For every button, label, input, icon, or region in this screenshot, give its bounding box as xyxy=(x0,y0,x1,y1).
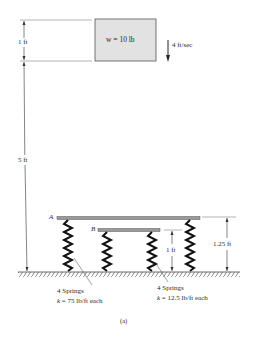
block-weight-label: w = 10 lb xyxy=(106,36,135,44)
inner-springs-stiffness: k = 12.5 lb/ft each xyxy=(157,295,208,302)
spring-b-right xyxy=(148,232,156,271)
spring-impact-diagram xyxy=(0,0,256,340)
figure-caption: (a) xyxy=(120,318,127,325)
spring-a-right xyxy=(186,220,194,271)
velocity-label: 4 ft/sec xyxy=(172,42,192,49)
platform-a-height-label: 1.25 ft xyxy=(213,241,231,248)
velocity-arrow-icon xyxy=(166,40,170,62)
drop-height-dimension xyxy=(23,62,29,271)
inner-springs-count: 4 Springs xyxy=(157,285,184,292)
platform-a-label: A xyxy=(49,214,53,221)
outer-springs-stiffness: k = 75 lb/ft each xyxy=(57,298,103,305)
platform-b-label: B xyxy=(91,226,95,233)
outer-springs-count: 4 Springs xyxy=(57,288,84,295)
platform-a xyxy=(57,217,200,220)
drop-height-label: 5 ft xyxy=(18,157,28,164)
block-height-label: 1 ft xyxy=(18,39,28,46)
platform-b-height-label: 1 ft xyxy=(166,247,176,254)
spring-b-left xyxy=(103,232,111,271)
spring-a-left xyxy=(64,220,72,271)
platform-b xyxy=(98,229,160,232)
ground xyxy=(18,272,240,277)
